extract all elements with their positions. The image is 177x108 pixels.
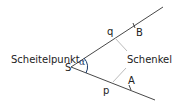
point-b-label: B bbox=[136, 28, 143, 38]
vertex-label: S bbox=[65, 63, 71, 73]
ray-p-label: p bbox=[103, 86, 109, 96]
leader-upper bbox=[115, 38, 127, 51]
leader-lower bbox=[113, 68, 126, 82]
point-a-label: A bbox=[128, 76, 135, 86]
angle-label: α bbox=[79, 58, 85, 67]
ray-q-label: q bbox=[107, 27, 113, 37]
ray-p bbox=[71, 67, 155, 100]
side-caption: Schenkel bbox=[127, 55, 172, 65]
